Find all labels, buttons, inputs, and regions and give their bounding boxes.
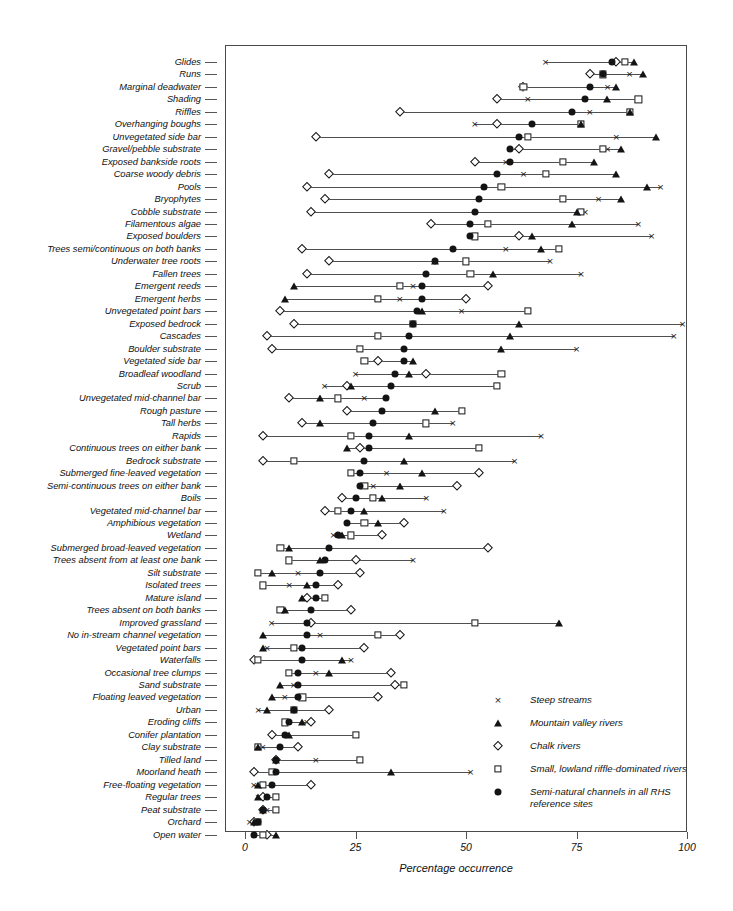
triangle-marker-icon <box>537 245 545 252</box>
category-label: Boulder substrate <box>128 344 201 354</box>
category-tick <box>205 236 217 237</box>
cross-marker-icon <box>519 170 527 178</box>
category-label: Sand substrate <box>138 680 201 690</box>
category-label: Urban <box>176 705 201 715</box>
diamond-marker-icon <box>297 244 307 254</box>
square-marker-icon <box>361 357 368 364</box>
cross-marker-icon <box>458 307 466 315</box>
cross-marker-icon <box>268 619 276 627</box>
category-tick <box>205 149 217 150</box>
triangle-marker-icon <box>396 482 404 489</box>
cross-marker-icon <box>648 232 656 240</box>
triangle-marker-icon <box>325 669 333 676</box>
category-label: Improved grassland <box>119 618 201 628</box>
triangle-marker-icon <box>497 345 505 352</box>
square-marker-icon <box>467 270 474 277</box>
diamond-marker-icon <box>359 642 369 652</box>
diamond-marker-icon <box>421 368 431 378</box>
category-tick <box>205 710 217 711</box>
circle-marker-icon <box>290 706 297 713</box>
triangle-marker-icon <box>494 720 502 727</box>
x-tick-label: 100 <box>678 841 696 853</box>
triangle-marker-icon <box>343 445 351 452</box>
category-label: Trees absent from at least one bank <box>53 555 201 565</box>
circle-marker-icon <box>264 794 271 801</box>
cross-marker-icon <box>679 320 687 328</box>
circle-marker-icon <box>401 358 408 365</box>
category-label: Overhanging boughs <box>115 119 201 129</box>
square-marker-icon <box>286 557 293 564</box>
circle-marker-icon <box>365 445 372 452</box>
circle-marker-icon <box>379 407 386 414</box>
cross-marker-icon <box>670 332 678 340</box>
square-marker-icon <box>334 395 341 402</box>
category-label: Exposed bankside roots <box>102 157 201 167</box>
category-tick <box>205 822 217 823</box>
category-tick <box>205 299 217 300</box>
category-tick <box>205 797 217 798</box>
circle-marker-icon <box>387 382 394 389</box>
range-line <box>280 610 351 611</box>
circle-marker-icon <box>286 719 293 726</box>
cross-marker-icon <box>254 706 262 714</box>
circle-marker-icon <box>356 482 363 489</box>
range-line <box>470 236 651 237</box>
cross-marker-icon <box>586 108 594 116</box>
cross-marker-icon <box>511 457 519 465</box>
legend-item[interactable]: Steep streams <box>492 694 722 707</box>
circle-marker-icon <box>392 370 399 377</box>
circle-marker-icon <box>401 345 408 352</box>
triangle-marker-icon <box>316 420 324 427</box>
category-label: Gravel/pebble substrate <box>102 144 201 154</box>
diamond-marker-icon <box>293 742 303 752</box>
diamond-marker-icon <box>262 331 272 341</box>
category-label: Mature island <box>145 593 201 603</box>
category-label: Unvegetated side bar <box>113 132 201 142</box>
category-tick <box>205 623 217 624</box>
category-label: Glides <box>175 57 201 67</box>
circle-marker-icon <box>303 619 310 626</box>
category-label: Emergent reeds <box>135 281 201 291</box>
category-tick <box>205 772 217 773</box>
category-label: Waterfalls <box>160 655 201 665</box>
category-label: Filamentous algae <box>125 219 201 229</box>
diamond-marker-icon <box>399 518 409 528</box>
range-line <box>590 74 643 75</box>
category-axis: GlidesRunsMarginal deadwaterShadingRiffl… <box>0 45 225 832</box>
x-axis-title: Percentage occurrence <box>225 862 687 874</box>
x-tick-label: 75 <box>571 841 583 853</box>
diamond-marker-icon <box>372 692 382 702</box>
legend-item[interactable]: Mountain valley rivers <box>492 717 722 730</box>
circle-marker-icon <box>352 495 359 502</box>
range-line <box>302 249 558 250</box>
range-line <box>400 112 630 113</box>
category-tick <box>205 760 217 761</box>
triangle-marker-icon <box>489 270 497 277</box>
x-tick-label: 0 <box>242 841 248 853</box>
category-tick <box>205 560 217 561</box>
legend-item[interactable]: Chalk rivers <box>492 740 722 753</box>
legend-label: Steep streams <box>530 694 722 706</box>
category-tick <box>205 311 217 312</box>
legend-item[interactable]: Small, lowland riffle-dominated rivers <box>492 763 722 776</box>
triangle-marker-icon <box>506 333 514 340</box>
circle-marker-icon <box>295 669 302 676</box>
triangle-marker-icon <box>400 457 408 464</box>
category-label: Eroding cliffs <box>148 717 201 727</box>
legend-label: Chalk rivers <box>530 740 722 752</box>
legend-item[interactable]: Semi-natural channels in all RHSreferenc… <box>492 786 722 809</box>
triangle-marker-icon <box>573 208 581 215</box>
triangle-marker-icon <box>285 544 293 551</box>
category-label: Vegetated point bars <box>116 643 201 653</box>
category-label: Free-floating vegetation <box>103 780 201 790</box>
x-tick <box>687 832 688 839</box>
square-marker-icon <box>622 58 629 65</box>
circle-marker-icon <box>423 270 430 277</box>
cross-marker-icon <box>396 295 404 303</box>
triangle-marker-icon <box>298 594 306 601</box>
triangle-marker-icon <box>259 644 267 651</box>
category-tick <box>205 274 217 275</box>
circle-marker-icon <box>409 320 416 327</box>
range-line <box>294 324 683 325</box>
square-marker-icon <box>520 83 527 90</box>
